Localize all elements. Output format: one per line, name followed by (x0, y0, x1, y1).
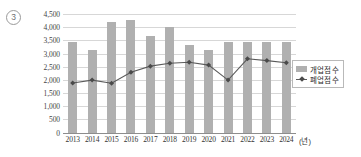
line-marker-2018 (167, 61, 172, 66)
line-marker-2023 (264, 58, 269, 63)
y-axis-tick-label: 1,500 (44, 89, 60, 98)
x-axis-unit-label: (년) (299, 135, 311, 146)
item-number-badge: 3 (6, 10, 21, 25)
chart-figure: 3 05001,0001,5002,0002,5003,0003,5004,00… (0, 0, 361, 157)
chart-legend: 개업점 수 폐업점 수 (292, 60, 344, 88)
legend-item-closed-stores: 폐업점 수 (296, 74, 339, 84)
x-axis-tick-label-2018: 2018 (163, 135, 177, 144)
line-marker-2017 (148, 64, 153, 69)
plot-area (63, 14, 296, 133)
x-axis-tick-label-2023: 2023 (260, 135, 274, 144)
line-series-폐업점-수 (63, 14, 296, 133)
y-axis-tick-label: 3,000 (44, 49, 60, 58)
line-marker-2013 (70, 80, 75, 85)
x-axis-tick-labels: 2013201420152016201720182019202020212022… (63, 135, 296, 149)
x-axis-tick-label-2013: 2013 (66, 135, 80, 144)
y-axis-tick-label: 4,000 (44, 23, 60, 32)
y-axis-tick-label: 500 (49, 115, 60, 124)
x-axis-tick-label-2016: 2016 (124, 135, 138, 144)
x-axis-tick-label-2019: 2019 (182, 135, 196, 144)
y-axis-tick-label: 2,500 (44, 62, 60, 71)
legend-line-marker-icon (296, 76, 307, 83)
x-axis-tick-label-2020: 2020 (202, 135, 216, 144)
line-marker-2024 (284, 60, 289, 65)
y-axis-tick-label: 2,000 (44, 75, 60, 84)
y-axis-tick-label: 0 (56, 128, 60, 137)
y-axis-tick-labels: 05001,0001,5002,0002,5003,0003,5004,0004… (26, 14, 60, 133)
x-axis-tick-label-2015: 2015 (104, 135, 118, 144)
x-axis-tick-label-2017: 2017 (143, 135, 157, 144)
y-axis-tick-label: 4,500 (44, 10, 60, 19)
legend-bar-swatch-icon (296, 66, 307, 72)
legend-item-open-stores: 개업점 수 (296, 64, 339, 74)
line-marker-2014 (90, 78, 95, 83)
x-axis-tick-label-2014: 2014 (85, 135, 99, 144)
x-axis-tick-label-2021: 2021 (221, 135, 235, 144)
y-axis-tick-label: 3,500 (44, 36, 60, 45)
y-axis-tick-label: 1,000 (44, 102, 60, 111)
line-marker-2016 (128, 70, 133, 75)
line-marker-2015 (109, 81, 114, 86)
x-axis-tick-label-2024: 2024 (279, 135, 293, 144)
x-axis-tick-label-2022: 2022 (240, 135, 254, 144)
gridline (63, 133, 296, 134)
line-marker-2019 (187, 60, 192, 65)
legend-label-closed-stores: 폐업점 수 (310, 74, 339, 85)
